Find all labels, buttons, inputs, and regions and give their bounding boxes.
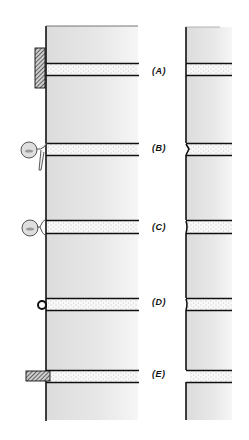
- insert-strip-e: [26, 371, 50, 381]
- joint-label-d: (D): [152, 297, 166, 307]
- joint-label-a: (A): [152, 66, 166, 76]
- left-wall-section: [46, 26, 139, 421]
- joint-label-c: (C): [152, 222, 166, 232]
- cover-strip-a: [35, 48, 45, 88]
- bulb-gasket-b: [21, 142, 47, 170]
- joint-label-e: (E): [152, 369, 166, 379]
- right-wall-section: [186, 27, 232, 420]
- joint-diagram: [0, 0, 249, 440]
- bulb-gasket-c: [22, 219, 46, 236]
- round-bead-d: [38, 301, 46, 309]
- joint-label-b: (B): [152, 143, 166, 153]
